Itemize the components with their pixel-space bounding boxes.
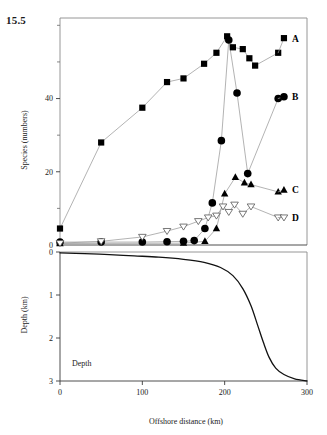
depth-axis-tick-labels: 0123 <box>49 248 53 386</box>
series-marker-B <box>218 137 226 145</box>
legend-label-D: D <box>292 213 299 223</box>
series-marker-A <box>201 61 207 67</box>
species-axis-tick-labels: 02040 <box>45 94 53 249</box>
series-marker-C <box>241 179 248 186</box>
species-axis-ticks <box>56 25 60 245</box>
series-marker-C <box>213 225 220 232</box>
species-data-markers <box>56 33 282 246</box>
depth-y-tick-label: 2 <box>49 334 53 343</box>
series-marker-A <box>246 55 252 61</box>
series-line-D <box>60 205 278 243</box>
series-marker-A <box>213 50 219 56</box>
x-tick-label: 0 <box>58 388 62 397</box>
series-marker-A <box>57 225 63 231</box>
x-axis-tick-labels: 0100200300 <box>58 388 313 397</box>
series-line-C <box>60 177 278 243</box>
series-marker-A <box>252 62 258 68</box>
legend-label-C: C <box>292 185 299 195</box>
species-y-tick-label: 20 <box>45 168 53 177</box>
x-tick-label: 100 <box>136 388 148 397</box>
x-axis-title: Offshore distance (km) <box>149 417 223 426</box>
series-marker-D <box>225 209 233 215</box>
series-marker-A <box>240 46 246 52</box>
legend-marker-C <box>280 186 287 193</box>
series-marker-A <box>98 139 104 145</box>
depth-panel-frame <box>60 252 307 381</box>
scientific-figure-canvas: 02040 Species (numbers) ABCD 0123 Depth … <box>0 0 327 435</box>
x-tick-label: 200 <box>219 388 231 397</box>
series-marker-B <box>233 89 241 97</box>
depth-y-tick-label: 1 <box>49 291 53 300</box>
series-marker-A <box>164 79 170 85</box>
species-panel: 02040 Species (numbers) ABCD <box>20 18 307 250</box>
x-axis-ticks <box>60 381 307 385</box>
series-marker-B <box>190 237 198 245</box>
legend-marker-A <box>281 35 287 41</box>
species-frame-path <box>60 18 307 245</box>
series-marker-A <box>139 105 145 111</box>
figure-root: 15.5 02040 Species (numbers) ABCD 0123 D… <box>0 0 327 435</box>
depth-profile-curve <box>60 253 307 381</box>
depth-y-tick-label: 0 <box>49 248 53 257</box>
series-marker-B <box>201 225 209 233</box>
depth-y-axis-title: Depth (km) <box>20 296 29 333</box>
legend-label-B: B <box>292 92 299 102</box>
series-line-A <box>60 36 278 228</box>
depth-panel: 0123 Depth (km) Depth <box>20 248 307 386</box>
series-marker-D <box>195 219 203 225</box>
series-marker-D <box>239 211 247 217</box>
legend-marker-B <box>280 93 288 101</box>
depth-y-tick-label: 3 <box>49 377 53 386</box>
species-y-axis-title: Species (numbers) <box>20 110 29 170</box>
legend-marker-D <box>280 215 288 221</box>
x-tick-label: 300 <box>301 388 313 397</box>
depth-axis-ticks <box>56 252 60 381</box>
series-marker-B <box>244 170 252 178</box>
series-marker-B <box>163 238 171 246</box>
series-marker-B <box>225 36 233 44</box>
series-marker-A <box>180 75 186 81</box>
species-panel-frame <box>60 18 307 245</box>
series-marker-A <box>230 44 236 50</box>
series-marker-D <box>204 215 212 221</box>
depth-frame-path <box>60 252 307 381</box>
series-marker-C <box>221 190 228 197</box>
series-marker-C <box>232 173 239 180</box>
legend-label-A: A <box>292 34 299 44</box>
series-marker-B <box>209 199 217 207</box>
depth-inline-annotation: Depth <box>72 359 92 368</box>
shared-x-axis: 0100200300 Offshore distance (km) <box>58 381 313 426</box>
species-y-tick-label: 40 <box>45 94 53 103</box>
